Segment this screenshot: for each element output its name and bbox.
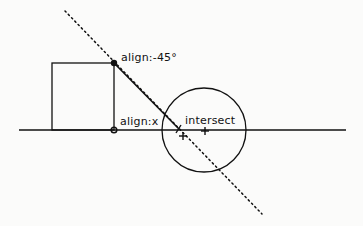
align-x-label: align:x (120, 115, 159, 128)
circle-center-marker[interactable] (201, 127, 209, 135)
align-angle-label: align:-45° (121, 51, 177, 64)
rectangle-shape (52, 63, 114, 130)
construction-diagram: align:-45° align:x intersect (0, 0, 363, 226)
intersect-label: intersect (185, 114, 236, 127)
intersection-point-marker[interactable] (179, 132, 187, 140)
align-angle-handle[interactable] (111, 60, 117, 66)
